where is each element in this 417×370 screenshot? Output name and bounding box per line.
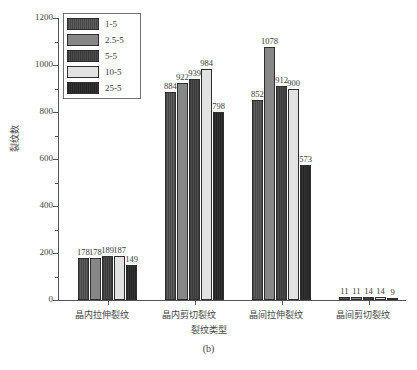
bar — [90, 258, 102, 300]
legend-swatch — [67, 34, 99, 46]
y-minor-tick-mark — [55, 89, 58, 90]
bar — [177, 83, 189, 300]
bar — [276, 86, 288, 300]
y-tick-label: 400 — [13, 201, 53, 210]
legend-label: 2.5-5 — [105, 36, 124, 45]
bar — [252, 100, 264, 300]
bar — [189, 79, 201, 300]
legend-item[interactable]: 5-5 — [67, 48, 137, 64]
y-tick-label: 1000 — [13, 60, 53, 69]
bar — [363, 297, 375, 300]
y-tick-label: 1200 — [13, 13, 53, 22]
legend: 1-52.5-55-510-525-5 — [63, 13, 141, 99]
x-tick-mark — [369, 301, 370, 305]
x-tick-mark — [195, 301, 196, 305]
legend-swatch — [67, 66, 99, 78]
y-tick-mark — [53, 253, 58, 254]
bar-value-label: 1078 — [259, 37, 281, 46]
y-minor-tick-mark — [55, 277, 58, 278]
bar-value-label: 573 — [295, 155, 317, 164]
bar-value-label: 984 — [196, 59, 218, 68]
figure-caption: (b) — [0, 343, 417, 354]
x-tick-mark — [282, 301, 283, 305]
bar — [165, 92, 177, 300]
bar-value-label: 900 — [283, 79, 305, 88]
bar — [300, 165, 312, 300]
legend-swatch — [67, 82, 99, 94]
y-tick-label: 600 — [13, 154, 53, 163]
legend-item[interactable]: 2.5-5 — [67, 32, 137, 48]
y-tick-label: 200 — [13, 248, 53, 257]
bar — [387, 298, 399, 300]
bar — [375, 297, 387, 300]
y-tick-label: 800 — [13, 107, 53, 116]
y-axis-spine — [58, 18, 59, 301]
legend-item[interactable]: 1-5 — [67, 16, 137, 32]
y-tick-label: 0 — [13, 295, 53, 304]
bar — [126, 265, 138, 300]
x-tick-mark — [108, 301, 109, 305]
legend-label: 10-5 — [105, 68, 122, 77]
legend-item[interactable]: 25-5 — [67, 80, 137, 96]
bar-value-label: 798 — [208, 102, 230, 111]
y-tick-mark — [53, 300, 58, 301]
bar — [264, 47, 276, 300]
legend-swatch — [67, 18, 99, 30]
y-tick-mark — [53, 18, 58, 19]
y-minor-tick-mark — [55, 183, 58, 184]
x-axis-title: 裂纹类型 — [0, 323, 417, 336]
y-tick-mark — [53, 65, 58, 66]
legend-label: 1-5 — [105, 20, 117, 29]
y-minor-tick-mark — [55, 230, 58, 231]
y-minor-tick-mark — [55, 42, 58, 43]
bar — [213, 112, 225, 300]
legend-item[interactable]: 10-5 — [67, 64, 137, 80]
legend-swatch — [67, 50, 99, 62]
bar — [339, 297, 351, 300]
y-minor-tick-mark — [55, 136, 58, 137]
y-tick-mark — [53, 159, 58, 160]
y-tick-mark — [53, 206, 58, 207]
legend-label: 5-5 — [105, 52, 117, 61]
bar-value-label: 9 — [382, 288, 404, 297]
bar — [351, 297, 363, 300]
figure-panel: 裂纹数 020040060080010001200 17817818918714… — [0, 0, 417, 370]
x-category-label: 晶间剪切裂纹 — [309, 308, 416, 321]
bar — [78, 258, 90, 300]
x-axis-spine — [58, 300, 406, 301]
bar — [102, 256, 114, 300]
bar — [288, 89, 300, 301]
legend-label: 25-5 — [105, 84, 122, 93]
y-tick-mark — [53, 112, 58, 113]
bar-value-label: 149 — [121, 255, 143, 264]
